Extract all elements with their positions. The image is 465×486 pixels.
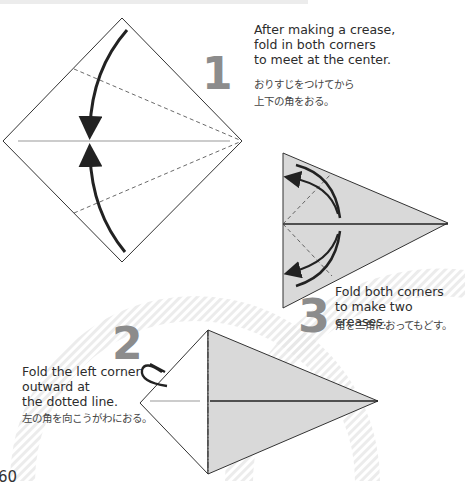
- step1-jp-line-1: おりすじをつけてから: [254, 76, 354, 93]
- step2-jp-line-1: 左の角を向こうがわにおる。: [22, 410, 152, 427]
- step3-japanese: 角を三角におってもどす。: [335, 317, 452, 334]
- step1-jp-line-2: 上下の角をおる。: [254, 93, 354, 110]
- step3-line-1: Fold both corners: [335, 284, 465, 299]
- step3-jp-line-1: 角を三角におってもどす。: [335, 317, 452, 334]
- step2-line-1: Fold the left corner: [22, 364, 141, 379]
- step-number-1: 1: [202, 52, 233, 96]
- step1-line-3: to meet at the center.: [254, 52, 395, 67]
- step1-line-1: After making a crease,: [254, 22, 395, 37]
- step-number-3: 3: [298, 293, 330, 339]
- step-number-2: 2: [112, 322, 143, 366]
- step1-instruction: After making a crease, fold in both corn…: [254, 22, 395, 67]
- step2-line-3: the dotted line.: [22, 394, 141, 409]
- step2-instruction: Fold the left corner outward at the dott…: [22, 364, 141, 409]
- step2-diagram: [140, 330, 378, 474]
- step1-line-2: fold in both corners: [254, 37, 395, 52]
- step2-japanese: 左の角を向こうがわにおる。: [22, 410, 152, 427]
- step2-line-2: outward at: [22, 379, 141, 394]
- step1-japanese: おりすじをつけてから 上下の角をおる。: [254, 76, 354, 110]
- page-number: 60: [0, 468, 17, 486]
